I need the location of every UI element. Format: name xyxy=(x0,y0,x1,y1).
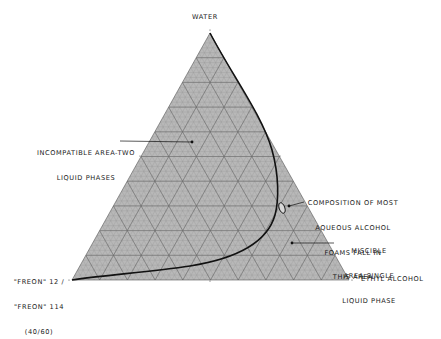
miscible-leader-dot xyxy=(291,242,294,245)
tick-mark xyxy=(209,29,210,30)
miscible-line-3: LIQUID PHASE xyxy=(331,297,407,305)
tick-mark xyxy=(279,155,280,156)
incompatible-leader-dot xyxy=(191,141,194,144)
foam-line-1: COMPOSITION OF MOST xyxy=(305,199,401,207)
tick-mark xyxy=(68,279,69,280)
incompatible-line-1: INCOMPATIBLE AREA-TWO xyxy=(33,149,139,157)
tick-mark xyxy=(209,280,210,281)
freon-line-3: (40/60) xyxy=(10,328,68,336)
freon-line-1: "FREON" 12 / xyxy=(10,278,68,286)
incompatible-line-2: LIQUID PHASES xyxy=(33,174,139,182)
tick-mark xyxy=(139,155,140,156)
vertex-label-freon: "FREON" 12 / "FREON" 114 (40/60) xyxy=(10,262,68,339)
foam-leader-dot xyxy=(288,205,291,208)
miscible-line-1: MISCIBLE xyxy=(331,247,407,255)
annotation-incompatible-area: INCOMPATIBLE AREA-TWO LIQUID PHASES xyxy=(33,133,139,199)
annotation-miscible-area: MISCIBLE AREA-SINGLE LIQUID PHASE xyxy=(331,231,407,321)
freon-line-2: "FREON" 114 xyxy=(10,303,68,311)
vertex-label-water: WATER xyxy=(192,13,218,21)
miscible-line-2: AREA-SINGLE xyxy=(331,272,407,280)
